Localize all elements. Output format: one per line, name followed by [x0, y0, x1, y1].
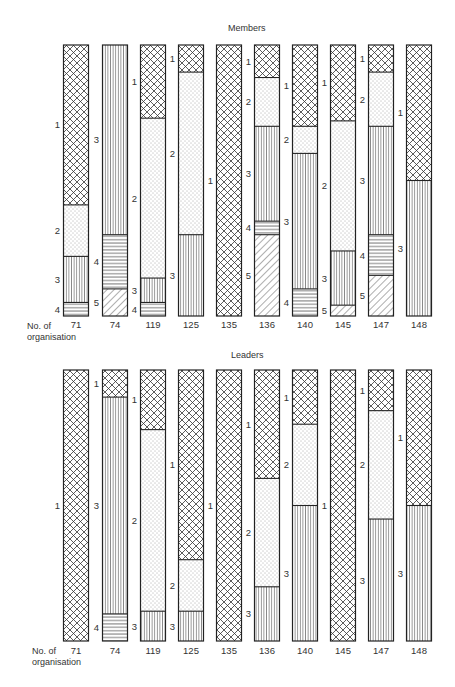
- bar-119: 1234119: [132, 45, 166, 330]
- bar-segment-5: [331, 305, 356, 316]
- bar-145: 1235145: [322, 45, 356, 330]
- bar-segment-4: [255, 221, 280, 235]
- segment-label: 2: [246, 96, 251, 107]
- x-tick-label: 147: [373, 645, 389, 656]
- x-tick-label: 148: [411, 319, 427, 330]
- bar-segment-3: [141, 611, 166, 641]
- bar-segment-1: [407, 370, 432, 506]
- segment-label: 2: [132, 515, 137, 526]
- segment-label: 3: [284, 216, 289, 227]
- segment-label: 4: [246, 222, 251, 233]
- segment-label: 1: [208, 500, 213, 511]
- x-tick-label: 125: [183, 319, 199, 330]
- x-tick-label: 71: [71, 645, 82, 656]
- segment-label: 2: [360, 94, 365, 105]
- segment-label: 1: [208, 175, 213, 186]
- bar-segment-1: [179, 370, 204, 560]
- segment-label: 1: [360, 53, 365, 64]
- bar-segment-1: [64, 370, 89, 641]
- bar-segment-1: [369, 370, 394, 411]
- bar-segment-2: [141, 118, 166, 278]
- segment-label: 1: [398, 107, 403, 118]
- bar-segment-2: [179, 72, 204, 235]
- segment-label: 2: [132, 193, 137, 204]
- bar-135: 1135: [208, 45, 242, 330]
- bar-145: 1145: [322, 370, 356, 656]
- segment-label: 2: [170, 580, 175, 591]
- bar-148: 13148: [398, 370, 432, 656]
- bar-segment-2: [369, 411, 394, 519]
- bar-segment-3: [103, 45, 128, 235]
- bar-segment-5: [103, 289, 128, 316]
- bar-segment-4: [141, 302, 166, 316]
- bar-segment-3: [103, 397, 128, 614]
- segment-label: 3: [360, 575, 365, 586]
- bar-segment-2: [293, 424, 318, 505]
- bar-segment-4: [369, 235, 394, 276]
- bar-segment-3: [407, 181, 432, 317]
- bar-segment-1: [407, 45, 432, 181]
- x-tick-label: 125: [183, 645, 199, 656]
- bar-segment-1: [179, 45, 204, 72]
- members-xlabel-line2: organisation: [27, 332, 76, 342]
- segment-label: 2: [360, 459, 365, 470]
- bar-segment-1: [293, 370, 318, 424]
- bar-segment-3: [369, 126, 394, 234]
- bar-segment-3: [141, 278, 166, 302]
- bar-segment-1: [64, 45, 89, 205]
- segment-label: 5: [360, 290, 365, 301]
- bar-segment-5: [369, 275, 394, 316]
- segment-label: 3: [398, 243, 403, 254]
- bar-136: 12345136: [246, 45, 280, 330]
- bar-segment-2: [141, 430, 166, 612]
- bar-segment-4: [103, 614, 128, 641]
- bar-segment-1: [103, 370, 128, 397]
- segment-label: 1: [284, 80, 289, 91]
- bar-segment-1: [217, 45, 242, 316]
- bar-135: 1135: [208, 370, 242, 656]
- x-tick-label: 147: [373, 319, 389, 330]
- members-chart: 1234713457412341191231251135123451361234…: [55, 45, 432, 330]
- segment-label: 4: [55, 304, 60, 315]
- bar-segment-3: [293, 506, 318, 642]
- bar-segment-2: [179, 560, 204, 611]
- x-tick-label: 148: [411, 645, 427, 656]
- bar-segment-2: [331, 121, 356, 251]
- segment-label: 1: [55, 500, 60, 511]
- bar-segment-3: [179, 235, 204, 316]
- segment-label: 2: [284, 134, 289, 145]
- segment-label: 2: [284, 459, 289, 470]
- bar-segment-4: [293, 289, 318, 316]
- segment-label: 3: [246, 608, 251, 619]
- x-tick-label: 136: [259, 319, 275, 330]
- segment-label: 1: [360, 385, 365, 396]
- bar-segment-1: [141, 370, 166, 430]
- leaders-chart: 1711347412311912312511351231361231401145…: [55, 370, 432, 656]
- segment-label: 5: [246, 270, 251, 281]
- segment-label: 2: [170, 148, 175, 159]
- segment-label: 1: [132, 76, 137, 87]
- bar-segment-1: [255, 45, 280, 78]
- segment-label: 3: [94, 134, 99, 145]
- x-tick-label: 145: [335, 319, 351, 330]
- x-tick-label: 71: [71, 319, 82, 330]
- bar-147: 123147: [360, 370, 394, 656]
- leaders-xlabel-line2: organisation: [32, 657, 81, 667]
- bar-segment-1: [331, 370, 356, 641]
- bar-segment-2: [255, 78, 280, 127]
- segment-label: 2: [55, 225, 60, 236]
- bar-71: 171: [55, 370, 89, 656]
- leaders-chart-title: Leaders: [231, 350, 264, 360]
- bar-140: 123140: [284, 370, 318, 656]
- segment-label: 4: [94, 256, 99, 267]
- bar-segment-4: [64, 302, 89, 316]
- bar-segment-3: [407, 506, 432, 642]
- bar-segment-1: [217, 370, 242, 641]
- bar-segment-1: [331, 45, 356, 121]
- segment-label: 3: [94, 500, 99, 511]
- bar-147: 12345147: [360, 45, 394, 330]
- bar-segment-5: [255, 235, 280, 316]
- bar-segment-3: [179, 611, 204, 641]
- x-tick-label: 140: [297, 319, 313, 330]
- bar-74: 34574: [94, 45, 128, 330]
